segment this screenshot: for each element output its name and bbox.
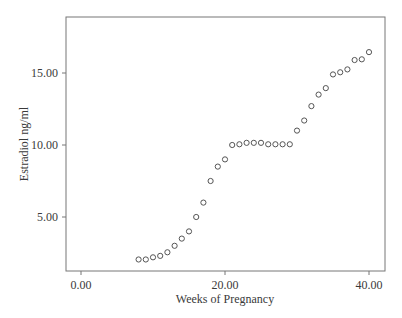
data-point: [330, 72, 335, 77]
data-point: [302, 118, 307, 123]
data-point: [194, 214, 199, 219]
data-point: [287, 142, 292, 147]
data-point: [172, 243, 177, 248]
x-tick-label: 0.00: [71, 278, 92, 292]
data-point: [186, 229, 191, 234]
y-tick-label: 15.00: [31, 66, 58, 80]
data-point: [143, 257, 148, 262]
data-point: [345, 67, 350, 72]
data-point: [150, 255, 155, 260]
plot-frame: [66, 17, 385, 271]
data-point: [215, 164, 220, 169]
data-point: [158, 253, 163, 258]
data-point: [222, 157, 227, 162]
data-point: [359, 57, 364, 62]
data-point: [258, 140, 263, 145]
data-point: [273, 142, 278, 147]
data-point: [244, 140, 249, 145]
data-point: [352, 57, 357, 62]
data-points: [136, 50, 372, 263]
x-tick-label: 40.00: [356, 278, 383, 292]
data-point: [316, 92, 321, 97]
x-tick-label: 20.00: [212, 278, 239, 292]
data-point: [208, 178, 213, 183]
data-point: [165, 250, 170, 255]
data-point: [179, 236, 184, 241]
data-point: [338, 70, 343, 75]
y-tick-label: 5.00: [37, 210, 58, 224]
data-point: [280, 142, 285, 147]
scatter-chart: 0.0020.0040.00 5.0010.0015.00 Weeks of P…: [0, 0, 402, 318]
y-tick-label: 10.00: [31, 138, 58, 152]
data-point: [230, 142, 235, 147]
data-point: [237, 142, 242, 147]
data-point: [251, 140, 256, 145]
data-point: [266, 142, 271, 147]
data-point: [323, 86, 328, 91]
data-point: [136, 257, 141, 262]
data-point: [366, 50, 371, 55]
data-point: [294, 128, 299, 133]
x-axis-ticks: 0.0020.0040.00: [71, 271, 383, 292]
x-axis-title: Weeks of Pregnancy: [176, 292, 274, 306]
y-axis-title: Estradiol ng/ml: [17, 106, 31, 181]
y-axis-ticks: 5.0010.0015.00: [31, 66, 66, 224]
data-point: [201, 200, 206, 205]
data-point: [309, 104, 314, 109]
